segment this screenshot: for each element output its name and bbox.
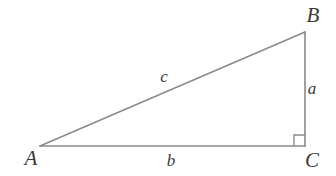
side-label-c: c	[155, 68, 173, 85]
right-triangle-figure: A B C a b c	[0, 0, 336, 176]
side-label-a: a	[303, 80, 321, 97]
side-c-line	[40, 32, 305, 146]
triangle-drawing	[0, 0, 336, 176]
side-label-b: b	[162, 152, 180, 169]
right-angle-marker-icon	[294, 135, 305, 146]
vertex-label-b: B	[302, 5, 324, 26]
vertex-label-c: C	[301, 150, 323, 171]
vertex-label-a: A	[20, 148, 42, 169]
